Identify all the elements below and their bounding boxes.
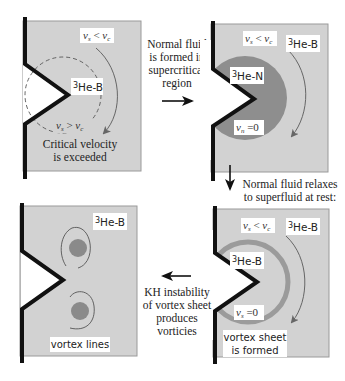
phase-label-he-b: 3He-B [95, 216, 125, 228]
phase-label-inner-he-b: 3He-B [232, 255, 262, 267]
transition-text: KH instability [144, 286, 210, 299]
caption-vortex-lines: vortex lines [51, 339, 109, 350]
caption-line: is exceeded [53, 151, 107, 163]
transition-text: to superfluid at rest: [244, 191, 336, 204]
caption-line: is formed [232, 345, 279, 356]
transition-text: vorticies [157, 325, 197, 337]
panel-vortex-sheet-formed: vs < vc 3He-B 3He-B vs =0 vortex sheet i… [200, 206, 329, 364]
transition-text: is formed in [149, 51, 205, 63]
mask [200, 40, 212, 160]
panel-normal-fluid-formed: vs < vc 3He-B 3He-N vn =0 [200, 21, 328, 181]
kh-instability-diagram: vs < vc 3He-B vs > vc Critical velocity … [0, 0, 345, 381]
caption-line: Critical velocity [43, 138, 118, 151]
transition-text: Normal fluid relaxes [242, 178, 338, 190]
transition-text: produces [156, 312, 198, 325]
vs-less-than-vc-label: vs < vc [83, 29, 111, 43]
transition-text: region [162, 77, 192, 90]
mask [200, 230, 214, 340]
transition-text: Normal fluid [147, 38, 207, 50]
phase-label-he-n: 3He-N [232, 70, 263, 82]
vs-less-than-vc-label: vs < vc [245, 32, 273, 46]
vs-greater-than-vc-label: vs > vc [56, 119, 84, 133]
vortex-core [71, 302, 89, 320]
vs-zero-label: vs =0 [236, 306, 259, 320]
phase-label-he-b: 3He-B [288, 221, 318, 233]
transition-normal-fluid-formed: Normal fluid is formed in supercritical … [147, 38, 207, 101]
phase-label-he-b: 3He-B [288, 38, 318, 50]
caption-line: vortex sheet [224, 332, 287, 343]
vs-less-than-vc-label: vs < vc [243, 219, 271, 233]
transition-text: supercritical [149, 64, 206, 77]
transition-text: of vortex sheet [143, 299, 212, 311]
phase-label-he-b: 3He-B [73, 81, 103, 93]
vortex-core [69, 239, 87, 257]
panel-critical-velocity: vs < vc 3He-B vs > vc Critical velocity … [23, 17, 141, 179]
panel-vortex-lines: 3He-B vortex lines [20, 203, 137, 363]
vn-zero-label: vn =0 [236, 121, 259, 135]
